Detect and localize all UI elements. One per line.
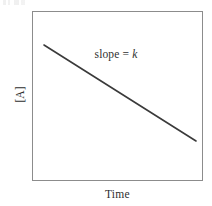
figure-zero-order-plot: slope = k [A] Time xyxy=(0,0,212,206)
slope-annotation-symbol: k xyxy=(132,48,137,60)
y-axis-label: [A] xyxy=(14,71,27,119)
slope-annotation-prefix: slope = xyxy=(95,48,133,60)
scan-artifact xyxy=(3,0,25,5)
x-axis-label: Time xyxy=(32,188,203,201)
slope-annotation: slope = k xyxy=(84,48,148,61)
plot-line-svg xyxy=(32,11,203,181)
